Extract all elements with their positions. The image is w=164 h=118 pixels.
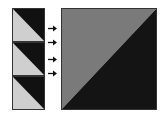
- arrow-icon: [48, 70, 57, 77]
- arrow-icon: [48, 25, 57, 32]
- small-tile-3: [12, 76, 45, 110]
- arrow-icon: [48, 39, 57, 46]
- big-block: [61, 8, 157, 110]
- arrow-icon: [48, 56, 57, 63]
- small-tile-1: [12, 8, 45, 42]
- small-tile-2: [12, 42, 45, 76]
